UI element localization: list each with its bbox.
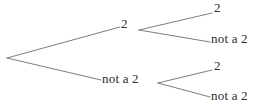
edge-root-to-level1-bottom — [7, 58, 101, 80]
node-label-level1-top: 2 — [121, 17, 128, 30]
node-label-level2-b: not a 2 — [211, 32, 248, 45]
edge-level1-bottom-to-level2-c — [158, 70, 212, 83]
edge-level1-top-to-level2-a — [139, 13, 212, 30]
edge-level1-top-to-level2-b — [139, 30, 210, 42]
node-label-level2-c: 2 — [214, 59, 221, 72]
edge-root-to-level1-top — [7, 27, 120, 58]
edge-level1-bottom-to-level2-d — [158, 83, 210, 97]
node-label-level2-d: not a 2 — [211, 89, 248, 102]
node-label-level1-bottom: not a 2 — [102, 72, 139, 85]
probability-tree-diagram: 2 not a 2 2 not a 2 2 not a 2 — [0, 0, 266, 103]
node-label-level2-a: 2 — [214, 1, 221, 14]
